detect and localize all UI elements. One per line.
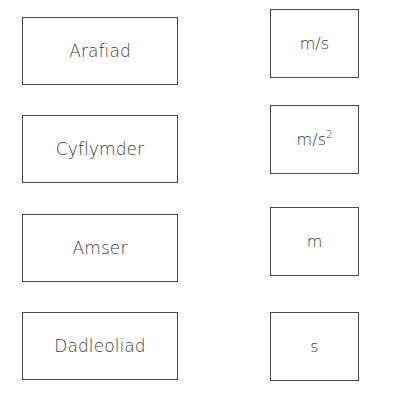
unit-label: s	[310, 337, 318, 356]
quantity-box-cyflymder[interactable]: Cyflymder	[22, 115, 178, 183]
unit-box-m-per-s2[interactable]: m/s2	[270, 105, 359, 174]
unit-box-m-per-s[interactable]: m/s	[270, 9, 359, 78]
quantity-box-dadleoliad[interactable]: Dadleoliad	[22, 312, 178, 380]
unit-base: m/s	[300, 34, 330, 53]
quantity-label: Cyflymder	[56, 139, 144, 159]
quantity-label: Arafiad	[69, 41, 131, 61]
unit-label: m/s	[300, 34, 330, 53]
unit-label: m/s2	[296, 130, 332, 149]
unit-box-s[interactable]: s	[270, 312, 359, 381]
unit-base: m/s	[296, 130, 326, 149]
unit-base: m	[307, 232, 323, 251]
quantity-box-amser[interactable]: Amser	[22, 214, 178, 282]
unit-label: m	[307, 232, 323, 251]
unit-box-m[interactable]: m	[270, 207, 359, 276]
unit-exponent: 2	[326, 129, 332, 140]
unit-base: s	[310, 337, 318, 356]
quantity-box-arafiad[interactable]: Arafiad	[22, 17, 178, 85]
quantity-label: Amser	[73, 238, 128, 258]
quantity-label: Dadleoliad	[54, 336, 146, 356]
